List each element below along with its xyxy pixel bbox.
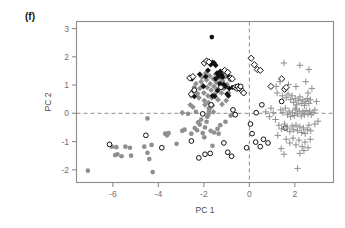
marker-open-circle [208, 151, 213, 156]
marker-plus [296, 137, 303, 144]
marker-filled-circle [123, 144, 128, 149]
marker-filled-circle [150, 170, 155, 175]
scatter-plot-canvas: -6-4-202-2-10123PC 1PC 2 [0, 0, 345, 228]
marker-plus [315, 118, 322, 125]
marker-filled-circle [174, 141, 179, 146]
y-tick-label: -2 [61, 165, 69, 175]
marker-plus [293, 83, 300, 90]
marker-plus [312, 121, 319, 128]
marker-plus [294, 165, 301, 172]
marker-filled-circle [145, 116, 150, 121]
marker-plus [303, 78, 310, 85]
x-tick-label: -4 [155, 189, 163, 199]
marker-plus [289, 93, 296, 100]
marker-open-circle [254, 110, 259, 115]
marker-open-circle [159, 145, 164, 150]
marker-filled-circle [220, 75, 225, 80]
marker-open-circle [266, 141, 271, 146]
marker-plus [293, 107, 300, 114]
marker-filled-circle [216, 131, 221, 136]
marker-filled-circle [166, 131, 171, 136]
marker-open-circle [261, 137, 266, 142]
marker-filled-circle [213, 76, 218, 81]
marker-plus [272, 116, 279, 123]
marker-filled-diamond [219, 101, 225, 107]
marker-open-circle [189, 139, 194, 144]
marker-plus [266, 113, 273, 120]
figure-panel-f: (f) -6-4-202-2-10123PC 1PC 2 [0, 0, 345, 228]
marker-open-circle [253, 140, 258, 145]
x-tick-label: 0 [247, 189, 252, 199]
marker-plus [281, 60, 288, 66]
marker-filled-circle [209, 35, 214, 40]
x-tick-label: -2 [200, 189, 208, 199]
marker-filled-circle [119, 154, 124, 159]
marker-open-circle [238, 84, 243, 89]
marker-open-circle [203, 152, 208, 157]
marker-plus [313, 98, 320, 105]
data-points-layer [86, 35, 322, 175]
y-tick-label: 3 [64, 24, 69, 34]
marker-filled-circle [189, 131, 194, 136]
series-6 [262, 60, 321, 172]
marker-open-circle [250, 131, 255, 136]
marker-filled-circle [210, 143, 215, 148]
x-tick-label: -6 [109, 189, 117, 199]
marker-open-circle [248, 122, 253, 127]
marker-plus [308, 128, 315, 135]
marker-filled-circle [195, 128, 200, 133]
marker-open-circle [258, 144, 263, 149]
marker-plus [297, 62, 304, 69]
marker-filled-circle [200, 131, 205, 136]
marker-filled-circle [145, 150, 150, 155]
marker-filled-diamond [179, 110, 185, 116]
y-axis-title: PC 2 [43, 92, 53, 111]
y-tick-label: 2 [64, 52, 69, 62]
marker-open-circle [233, 112, 238, 117]
marker-open-circle [192, 88, 197, 93]
marker-plus [300, 96, 307, 103]
marker-filled-diamond [211, 109, 217, 115]
marker-plus [305, 90, 312, 97]
marker-plus [309, 85, 316, 92]
marker-filled-circle [197, 122, 202, 127]
marker-open-circle [107, 142, 112, 147]
marker-filled-circle [202, 135, 207, 140]
marker-filled-circle [203, 74, 208, 79]
marker-filled-circle [149, 143, 154, 148]
marker-filled-circle [129, 153, 134, 158]
marker-plus [262, 109, 269, 116]
marker-filled-circle [113, 153, 118, 158]
marker-filled-circle [223, 119, 228, 124]
marker-plus [290, 135, 297, 142]
marker-filled-circle [114, 145, 119, 150]
x-tick-label: 2 [292, 189, 297, 199]
marker-plus [287, 140, 294, 147]
marker-filled-circle [186, 112, 191, 117]
marker-open-circle [260, 102, 265, 107]
marker-filled-circle [228, 113, 233, 118]
marker-plus [273, 83, 280, 90]
marker-plus [297, 94, 304, 101]
marker-open-circle [244, 145, 249, 150]
marker-filled-circle [218, 123, 223, 128]
marker-plus [297, 150, 304, 157]
marker-open-circle [200, 112, 205, 117]
marker-plus [293, 142, 300, 149]
marker-open-circle [222, 141, 227, 146]
marker-open-diamond [279, 76, 285, 82]
y-tick-label: 0 [64, 108, 69, 118]
marker-filled-circle [86, 168, 91, 173]
series-0 [86, 105, 234, 174]
marker-plus [306, 122, 313, 129]
marker-open-circle [231, 108, 236, 113]
marker-open-circle [225, 150, 230, 155]
marker-plus [306, 108, 313, 115]
marker-open-circle [144, 133, 149, 138]
marker-filled-circle [147, 157, 152, 162]
marker-plus [307, 136, 314, 143]
marker-filled-diamond [223, 98, 229, 104]
marker-open-circle [209, 102, 214, 107]
marker-filled-circle [203, 125, 208, 130]
marker-plus [275, 132, 282, 139]
